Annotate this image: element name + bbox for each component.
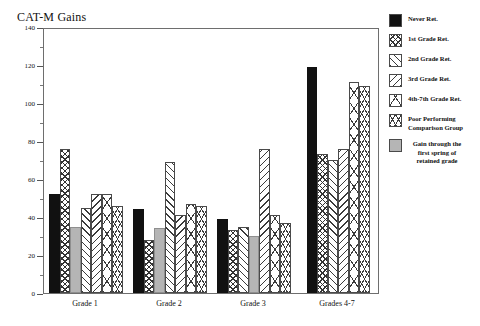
bar <box>238 227 249 294</box>
bar <box>81 208 92 294</box>
legend-item: 1st Grade Ret. <box>389 34 480 47</box>
y-axis-tick-minor <box>40 85 43 86</box>
x-axis-tick-label: Grade 1 <box>72 299 98 308</box>
bar <box>49 194 60 293</box>
bar-group-grades-4-7 <box>307 29 370 293</box>
legend-item: Never Ret. <box>389 14 480 27</box>
legend-label: 4th-7th Grade Ret. <box>408 94 461 103</box>
legend-label: 3rd Grade Ret. <box>408 74 451 83</box>
legend-label: 2nd Grade Ret. <box>408 54 451 63</box>
y-axis-tick-minor <box>40 123 43 124</box>
legend-swatch-diagonal-right <box>389 54 402 67</box>
bar <box>259 149 270 293</box>
bar <box>228 230 239 293</box>
bar <box>249 236 260 293</box>
y-axis-tick-major <box>37 180 43 181</box>
y-axis-tick-minor <box>40 199 43 200</box>
y-axis-tick-label: 20 <box>9 253 35 260</box>
x-axis-tick-label: Grades 4-7 <box>319 299 354 308</box>
legend-label: Poor PerformingComparison Group <box>408 114 463 132</box>
bar-group-grade-1 <box>49 29 123 293</box>
bar <box>133 209 144 293</box>
y-axis-tick-major <box>37 256 43 257</box>
bar-group-grade-3 <box>217 29 291 293</box>
y-axis-tick-label: 0 <box>9 291 35 298</box>
bar <box>359 86 370 293</box>
legend-swatch-herringbone <box>389 114 402 127</box>
bar <box>317 154 328 293</box>
bar <box>270 215 281 293</box>
bar <box>196 206 207 293</box>
y-axis-tick-label: 140 <box>9 25 35 32</box>
y-axis-tick-minor <box>40 275 43 276</box>
bar <box>91 194 102 293</box>
y-axis-tick-major <box>37 142 43 143</box>
bar <box>349 82 360 293</box>
bar-group-grade-2 <box>133 29 207 293</box>
bar <box>175 215 186 293</box>
legend-swatch-cross-hatch <box>389 94 402 107</box>
plot-area <box>44 29 378 293</box>
plot-frame <box>43 28 379 294</box>
bar <box>102 194 113 293</box>
bar <box>186 204 197 293</box>
bar <box>154 228 165 293</box>
legend-label: 1st Grade Ret. <box>408 34 449 43</box>
x-axis-tick-label: Grade 2 <box>156 299 182 308</box>
y-axis-tick-label: 120 <box>9 63 35 70</box>
legend-label: Gain through thefirst spring ofretained … <box>408 139 466 166</box>
legend-label: Never Ret. <box>408 14 438 23</box>
chart-legend: Never Ret.1st Grade Ret.2nd Grade Ret.3r… <box>389 14 480 173</box>
bar <box>112 206 123 293</box>
bar <box>307 67 318 293</box>
legend-swatch-solid-black <box>389 14 402 27</box>
y-axis-tick-label: 40 <box>9 215 35 222</box>
chart-root: CAT-M Gains 020406080100120140 Grade 1Gr… <box>0 0 480 326</box>
bar <box>280 223 291 293</box>
y-axis-tick-major <box>37 294 43 295</box>
legend-swatch-diagonal-left <box>389 74 402 87</box>
bar <box>70 227 81 294</box>
bar <box>60 149 71 293</box>
y-axis-tick-minor <box>40 47 43 48</box>
y-axis-tick-label: 80 <box>9 139 35 146</box>
y-axis-tick-minor <box>40 161 43 162</box>
bar <box>144 240 155 293</box>
bar <box>165 162 176 293</box>
y-axis-tick-major <box>37 104 43 105</box>
legend-item: Poor PerformingComparison Group <box>389 114 480 132</box>
bar <box>338 149 349 293</box>
legend-item: 3rd Grade Ret. <box>389 74 480 87</box>
legend-item: 2nd Grade Ret. <box>389 54 480 67</box>
y-axis-tick-major <box>37 66 43 67</box>
legend-item: Gain through thefirst spring ofretained … <box>389 139 480 166</box>
y-axis-tick-major <box>37 28 43 29</box>
legend-item: 4th-7th Grade Ret. <box>389 94 480 107</box>
bar <box>217 219 228 293</box>
legend-swatch-solid-gray <box>389 139 402 152</box>
legend-swatch-checkerboard <box>389 34 402 47</box>
y-axis-tick-minor <box>40 237 43 238</box>
y-axis-tick-label: 100 <box>9 101 35 108</box>
y-axis-tick-label: 60 <box>9 177 35 184</box>
y-axis-tick-major <box>37 218 43 219</box>
bar <box>328 160 339 293</box>
x-axis-tick-label: Grade 3 <box>240 299 266 308</box>
